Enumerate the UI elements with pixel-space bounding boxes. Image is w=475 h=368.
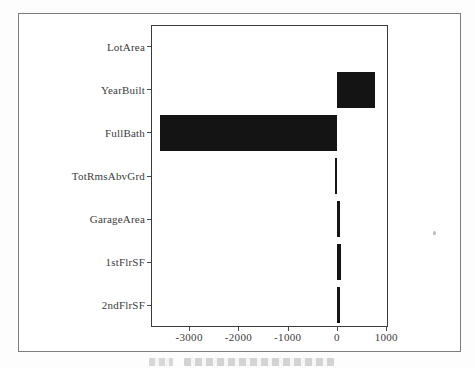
y-axis-label-2ndFlrSF: 2ndFlrSF	[102, 299, 145, 311]
bar-YearBuilt	[337, 72, 375, 108]
x-tick-label: -1000	[274, 331, 301, 343]
y-tick-mark	[147, 46, 151, 47]
bar-FullBath	[160, 115, 337, 151]
y-tick-mark	[147, 305, 151, 306]
figure-caption-remnant-left	[149, 358, 173, 366]
y-tick-mark	[147, 89, 151, 90]
y-axis-label-GarageArea: GarageArea	[90, 213, 145, 225]
y-axis-label-YearBuilt: YearBuilt	[101, 84, 145, 96]
y-axis-label-TotRmsAbvGrd: TotRmsAbvGrd	[72, 170, 145, 182]
bar-GarageArea	[337, 201, 340, 237]
y-axis-label-1stFlrSF: 1stFlrSF	[105, 256, 145, 268]
x-tick-label: 0	[334, 331, 340, 343]
y-axis-label-FullBath: FullBath	[105, 127, 145, 139]
figure-caption-remnant-main	[184, 358, 334, 366]
plot-area	[151, 25, 388, 327]
scanned-page: { "figure": { "background": "#ffffff", "…	[0, 0, 475, 368]
y-axis-label-LotArea: LotArea	[107, 41, 145, 53]
x-tick-label: 1000	[375, 331, 398, 343]
x-tick-label: -3000	[176, 331, 203, 343]
bar-TotRmsAbvGrd	[335, 158, 337, 194]
bar-2ndFlrSF	[337, 287, 340, 323]
bar-1stFlrSF	[337, 244, 341, 280]
y-tick-mark	[147, 132, 151, 133]
scan-artifact-speck	[433, 231, 436, 235]
y-tick-mark	[147, 262, 151, 263]
y-tick-mark	[147, 219, 151, 220]
x-tick-label: -2000	[225, 331, 252, 343]
y-tick-mark	[147, 176, 151, 177]
